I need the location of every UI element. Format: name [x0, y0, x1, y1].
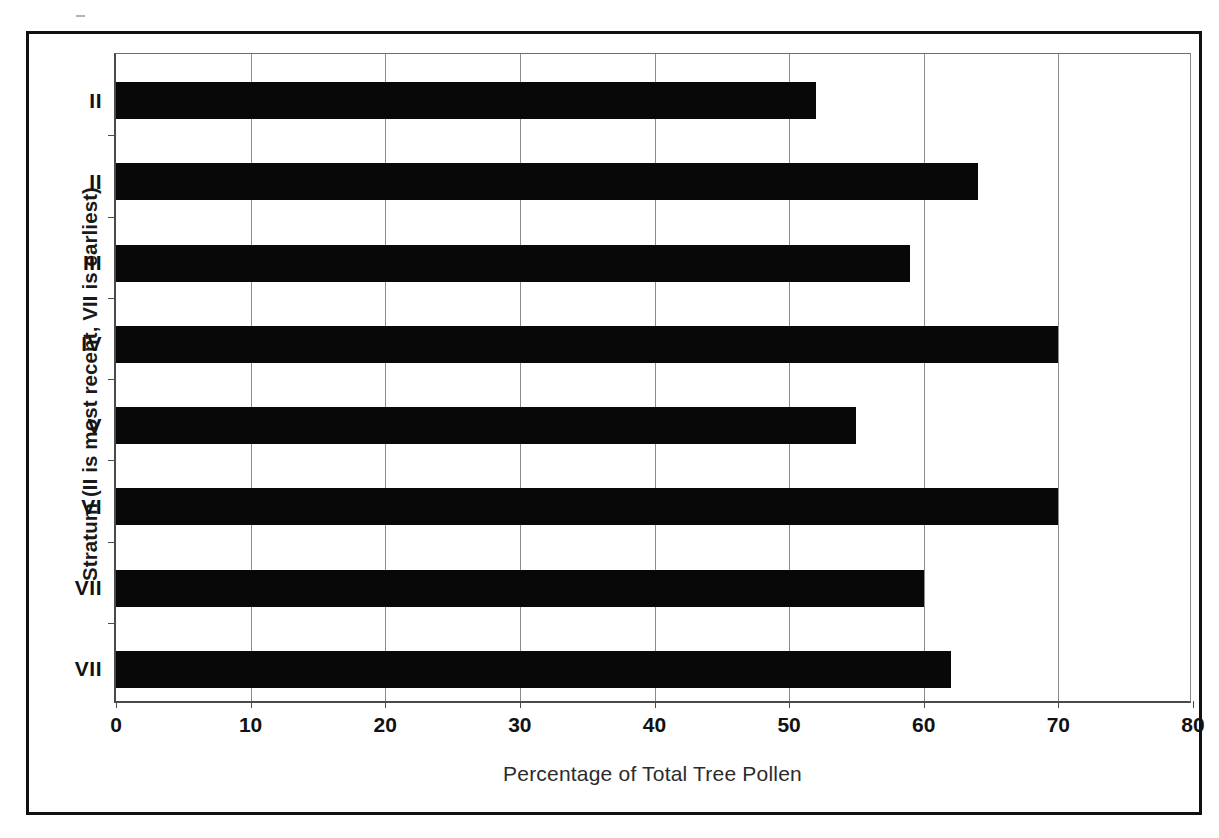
scan-artifact-speck: [76, 15, 85, 17]
bar[interactable]: [116, 245, 910, 282]
bar[interactable]: [116, 407, 856, 444]
bar[interactable]: [116, 651, 951, 688]
x-tick-20: [385, 701, 386, 708]
y-tick-2: [108, 217, 116, 218]
y-category-label-4: V: [87, 414, 102, 438]
y-category-label-5: VI: [81, 495, 102, 519]
bar[interactable]: [116, 326, 1058, 363]
y-category-label-7: VII: [75, 657, 102, 681]
bar[interactable]: [116, 488, 1058, 525]
y-category-label-6: VII: [75, 576, 102, 600]
y-tick-4: [108, 379, 116, 380]
y-category-label-2: III: [83, 251, 102, 275]
x-tick-30: [520, 701, 521, 708]
y-category-label-0: II: [89, 89, 102, 113]
chart-figure-frame: Stratum (II is most recent, VII is earli…: [26, 31, 1202, 815]
bar[interactable]: [116, 82, 816, 119]
x-axis-title: Percentage of Total Tree Pollen: [114, 762, 1191, 786]
plot-area: 01020304050607080 IIIIIIIIVVVIVIIVII: [114, 53, 1191, 703]
y-category-label-3: IV: [81, 332, 102, 356]
x-tick-label-40: 40: [643, 713, 666, 737]
x-tick-label-30: 30: [508, 713, 531, 737]
y-category-label-1: II: [89, 170, 102, 194]
x-tick-80: [1193, 701, 1194, 708]
x-tick-70: [1058, 701, 1059, 708]
y-tick-7: [108, 623, 116, 624]
x-tick-40: [655, 701, 656, 708]
bar-group-4: [116, 407, 1190, 444]
bar-group-7: [116, 651, 1190, 688]
x-tick-label-80: 80: [1181, 713, 1204, 737]
x-tick-label-60: 60: [912, 713, 935, 737]
bar-group-3: [116, 326, 1190, 363]
bar-group-6: [116, 570, 1190, 607]
x-tick-label-70: 70: [1047, 713, 1070, 737]
x-tick-label-50: 50: [777, 713, 800, 737]
x-tick-10: [251, 701, 252, 708]
y-tick-3: [108, 298, 116, 299]
x-tick-0: [116, 701, 117, 708]
x-tick-label-0: 0: [110, 713, 122, 737]
x-tick-label-10: 10: [239, 713, 262, 737]
bar-group-2: [116, 245, 1190, 282]
x-tick-60: [924, 701, 925, 708]
bar[interactable]: [116, 570, 924, 607]
bar-group-1: [116, 163, 1190, 200]
x-tick-50: [789, 701, 790, 708]
y-tick-6: [108, 542, 116, 543]
bar[interactable]: [116, 163, 978, 200]
bar-group-0: [116, 82, 1190, 119]
bars-layer: [116, 54, 1190, 701]
x-tick-label-20: 20: [374, 713, 397, 737]
bar-group-5: [116, 488, 1190, 525]
y-tick-1: [108, 135, 116, 136]
y-tick-5: [108, 460, 116, 461]
